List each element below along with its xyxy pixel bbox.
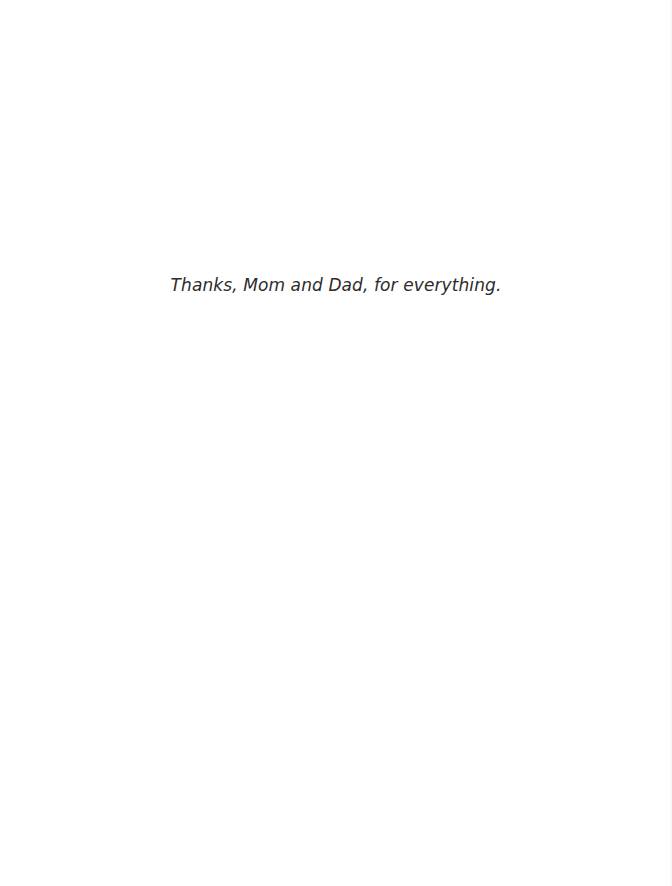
book-page: Thanks, Mom and Dad, for everything. <box>0 0 672 886</box>
dedication-text: Thanks, Mom and Dad, for everything. <box>0 273 672 297</box>
